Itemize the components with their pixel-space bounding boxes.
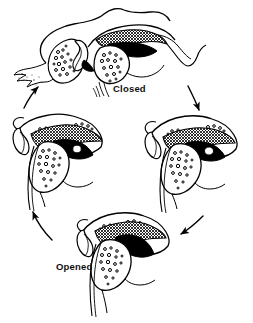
label-opened: Opened bbox=[56, 261, 93, 272]
right-joint-space bbox=[205, 147, 214, 155]
tmj-cycle-figure: Closed bbox=[0, 0, 253, 323]
left-joint-space bbox=[73, 145, 81, 153]
closed-condyle-head bbox=[94, 46, 129, 84]
label-closed: Closed bbox=[113, 83, 146, 94]
tmj-cycle-canvas: Closed bbox=[0, 0, 253, 323]
